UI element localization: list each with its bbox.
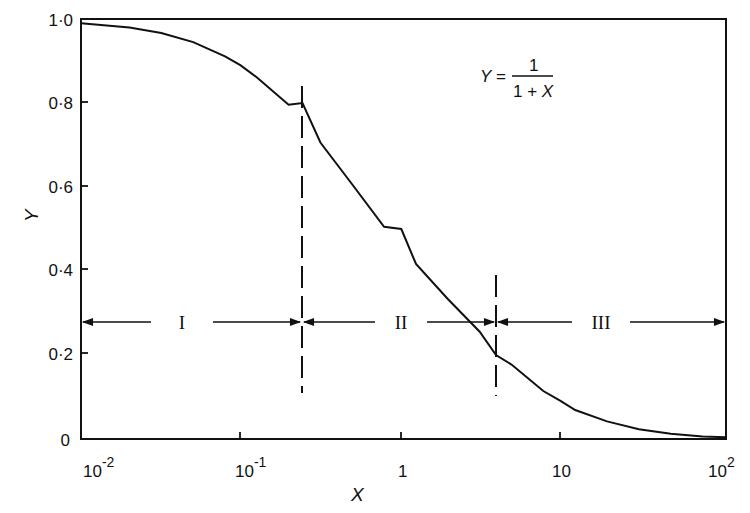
- x-tick-label: 1: [398, 462, 407, 481]
- x-axis-ticks: [240, 432, 560, 439]
- x-tick-label: 102: [708, 454, 735, 481]
- plot-frame: [81, 19, 726, 439]
- x-tick-label: 10-2: [83, 454, 115, 481]
- y-tick-label: 0·8: [48, 94, 73, 113]
- y-axis-ticks: [81, 102, 88, 353]
- chart: 1·0 0·8 0·6 0·4 0·2 0 10-2 10-1 1 10 102…: [0, 0, 750, 513]
- formula-numerator: 1: [529, 56, 538, 75]
- y-axis-label: Y: [21, 208, 42, 222]
- x-axis-label: X: [350, 484, 365, 505]
- curve-y-equals-1-over-1-plus-x: [81, 23, 726, 437]
- y-tick-label: 0·6: [48, 178, 73, 197]
- region-label-i: I: [179, 312, 185, 333]
- x-tick-labels: 10-2 10-1 1 10 102: [83, 454, 735, 481]
- x-tick-label: 10: [552, 462, 571, 481]
- y-tick-label: 0: [61, 431, 70, 450]
- formula-annotation: Y = 1 1 + X: [480, 56, 554, 101]
- region-label-ii: II: [395, 312, 408, 333]
- x-tick-label: 10-1: [235, 454, 267, 481]
- y-tick-labels: 1·0 0·8 0·6 0·4 0·2 0: [48, 11, 73, 450]
- formula-lhs: Y =: [480, 67, 506, 86]
- y-tick-label: 0·2: [48, 345, 73, 364]
- y-tick-label: 1·0: [48, 11, 73, 30]
- y-tick-label: 0·4: [48, 261, 73, 280]
- formula-denominator: 1 + X: [513, 82, 554, 101]
- region-label-iii: III: [592, 312, 611, 333]
